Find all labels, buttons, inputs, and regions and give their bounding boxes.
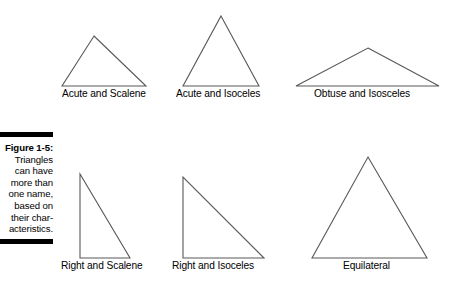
figure-number-label: Figure 1-5: <box>0 142 53 154</box>
triangle-right-scalene <box>80 174 130 258</box>
label-right-isoceles: Right and Isoceles <box>172 260 254 272</box>
caption-line-5: based on <box>0 200 53 212</box>
label-acute-scalene: Acute and Scalene <box>62 88 146 100</box>
label-right-scalene: Right and Scalene <box>61 260 143 272</box>
figure-caption-block: Figure 1-5: Triangles can have more than… <box>0 132 57 244</box>
caption-rule-bottom <box>0 239 53 244</box>
label-obtuse-isosceles: Obtuse and Isosceles <box>314 88 410 100</box>
triangle-acute-isoceles <box>183 16 259 86</box>
label-acute-isoceles: Acute and Isoceles <box>176 88 260 100</box>
caption-rule-top <box>0 132 53 137</box>
label-equilateral: Equilateral <box>343 260 390 272</box>
triangle-obtuse-isosceles <box>296 48 439 86</box>
caption-line-3: more than <box>0 177 53 189</box>
caption-line-2: can have <box>0 165 53 177</box>
caption-line-1: Triangles <box>0 154 53 166</box>
caption-line-7: acteristics. <box>0 223 53 235</box>
triangle-right-isoceles <box>183 177 264 258</box>
triangles-canvas <box>0 0 474 297</box>
triangle-acute-scalene <box>62 36 146 86</box>
triangle-equilateral <box>312 157 427 258</box>
caption-line-6: their char- <box>0 212 53 224</box>
figure-page: Acute and Scalene Acute and Isoceles Obt… <box>0 0 474 297</box>
caption-line-4: one name, <box>0 188 53 200</box>
figure-caption-text: Figure 1-5: Triangles can have more than… <box>0 142 57 235</box>
